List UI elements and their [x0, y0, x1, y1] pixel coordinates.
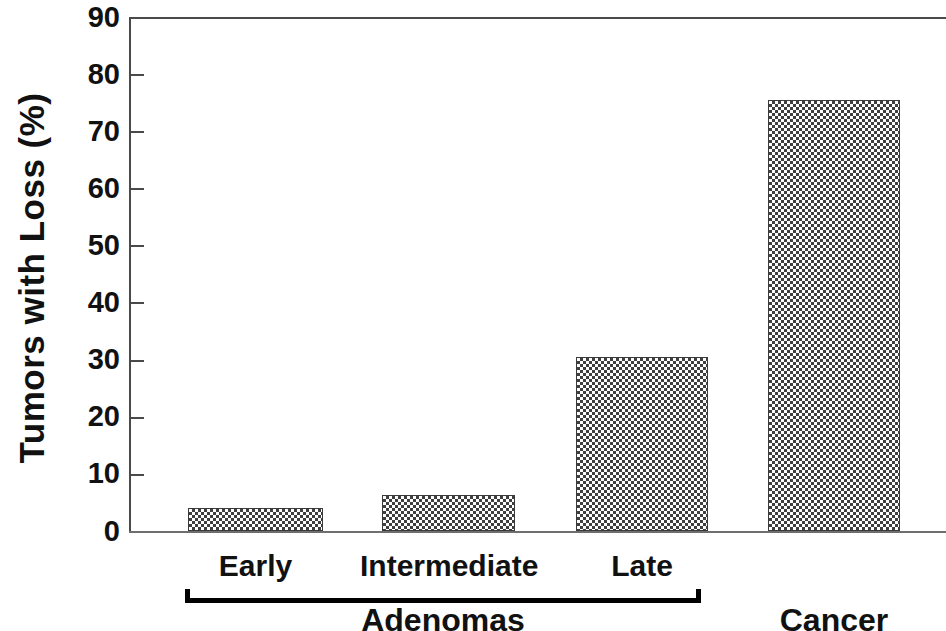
bar-late[interactable]	[576, 357, 708, 531]
group-label-cancer: Cancer	[736, 602, 932, 631]
category-label-late: Late	[576, 549, 708, 583]
group-label-adenomas: Adenomas	[185, 602, 701, 631]
adenomas-group-bracket	[185, 589, 701, 603]
category-label-intermediate: Intermediate	[360, 549, 538, 583]
bar-cancer[interactable]	[768, 100, 900, 531]
bracket-tick-right	[696, 589, 701, 603]
category-label-early: Early	[188, 549, 323, 583]
bar-chart-figure: Tumors with Loss (%) 90 80 70 60 50 40 3…	[0, 0, 946, 631]
bar-early[interactable]	[188, 508, 323, 531]
x-axis-baseline	[129, 531, 946, 533]
bars-layer	[0, 17, 946, 531]
bar-intermediate[interactable]	[382, 495, 515, 531]
